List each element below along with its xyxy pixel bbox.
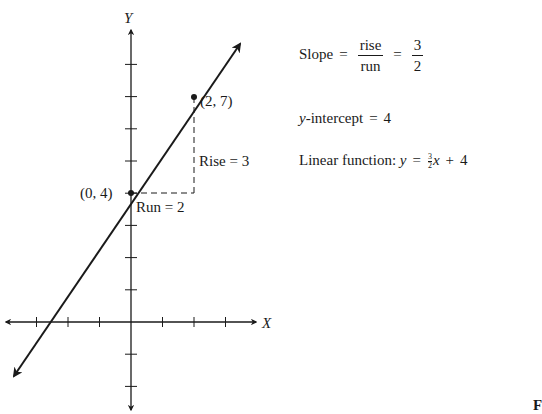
slope-formula: Slope=riserun=32 [299,37,427,75]
intercept-var: y [299,110,306,126]
x-axis-label: X [262,316,271,331]
slope-fraction: 32 [412,37,424,75]
slope-numerator: 3 [412,37,424,56]
point-a-label: (0, 4) [80,186,113,201]
rise-label: Rise = 3 [199,154,249,169]
intercept-formula: y-intercept=4 [299,110,391,127]
slope-word: Slope [299,46,333,62]
linear-slope-fraction: 32 [428,153,432,170]
point-b-label: (2, 7) [200,94,233,109]
linear-frac-den: 2 [428,162,432,170]
equals-sign: = [369,110,377,126]
equals-sign: = [393,46,401,62]
intercept-text: -intercept [306,110,363,126]
slope-denominator: 2 [412,56,424,75]
run-word: run [358,56,384,75]
point-2-7 [191,94,197,100]
linear-label: Linear function: [299,152,396,168]
intercept-value: 4 [384,110,392,126]
y-axis-label: Y [124,11,132,26]
linear-const: 4 [460,152,468,168]
equals-sign: = [412,152,420,168]
corner-fragment: F [533,398,542,413]
plus-sign: + [446,152,454,168]
linear-function-formula: Linear function: y=32x+4 [299,152,468,170]
linear-x: x [433,152,440,168]
run-label: Run = 2 [136,200,184,215]
rise-over-run: riserun [358,37,384,75]
point-0-4 [128,190,134,196]
linear-y: y [400,152,407,168]
equals-sign: = [339,46,347,62]
rise-word: rise [358,37,384,56]
